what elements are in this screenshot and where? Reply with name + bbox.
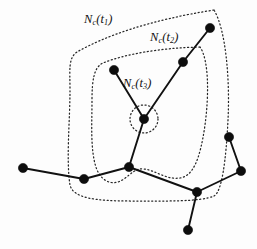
region-label-nc-t3: Nc(t3) <box>123 76 151 91</box>
label-arg-close: ) <box>174 30 178 44</box>
label-arg: (t <box>162 30 170 44</box>
label-arg: (t <box>96 12 104 26</box>
graph-node-n1 <box>205 23 214 32</box>
region-label-nc-t1: Nc(t1) <box>84 12 112 27</box>
label-arg-close: ) <box>108 12 112 26</box>
graph-node-n4 <box>139 114 148 123</box>
figure-root: Nc(t1) Nc(t2) Nc(t3) <box>0 0 257 249</box>
region-label-nc-t2: Nc(t2) <box>150 30 178 45</box>
graph-node-n6 <box>18 163 27 172</box>
graph-node-n7 <box>79 174 88 183</box>
graph-node-n8 <box>192 187 201 196</box>
graph-node-n9 <box>236 166 245 175</box>
edges-group <box>23 28 241 230</box>
graph-edge <box>183 28 210 62</box>
graph-edge <box>188 192 197 230</box>
graph-node-n11 <box>183 225 192 234</box>
label-arg-close: ) <box>147 76 151 90</box>
graph-node-n5 <box>124 162 133 171</box>
regions-group <box>68 10 228 201</box>
graph-edge <box>129 119 144 167</box>
graph-canvas <box>0 0 257 249</box>
graph-edge <box>84 167 129 179</box>
nodes-group <box>18 23 245 234</box>
graph-node-n2 <box>178 57 187 66</box>
graph-node-n10 <box>224 132 233 141</box>
region-boundary-region-t2 <box>92 47 208 183</box>
label-arg: (t <box>135 76 143 90</box>
graph-edge <box>229 137 241 171</box>
graph-edge <box>23 168 84 179</box>
graph-node-n3 <box>109 65 118 74</box>
graph-edge <box>129 167 197 192</box>
